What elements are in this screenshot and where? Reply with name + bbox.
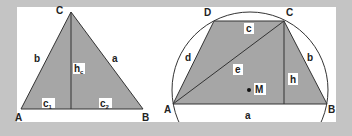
center-m-label: M [255, 84, 263, 95]
side-a-label-right: a [245, 110, 251, 121]
geometry-figure: C A B b a hc c1 c2 D C A B c d b e h M a [0, 0, 352, 136]
vertex-d-label: D [204, 7, 211, 18]
side-d-label: d [185, 52, 191, 63]
side-c-label: c [246, 23, 252, 34]
center-m-dot [247, 88, 251, 92]
side-b-label: b [34, 53, 40, 64]
height-h-label: h [290, 74, 296, 85]
vertex-a-label-right: A [164, 104, 171, 115]
vertex-c-label-right: C [286, 7, 293, 18]
diagonal-e-label: e [235, 64, 241, 75]
trapezoid-figure: D C A B c d b e h M a [164, 7, 335, 136]
vertex-c-label: C [56, 5, 63, 16]
vertex-a-label: A [15, 112, 22, 123]
vertex-b-label: B [142, 112, 149, 123]
side-a-label: a [112, 53, 118, 64]
triangle-figure: C A B b a hc c1 c2 [15, 5, 149, 123]
vertex-b-label-right: B [328, 104, 335, 115]
side-b-label-right: b [307, 52, 313, 63]
